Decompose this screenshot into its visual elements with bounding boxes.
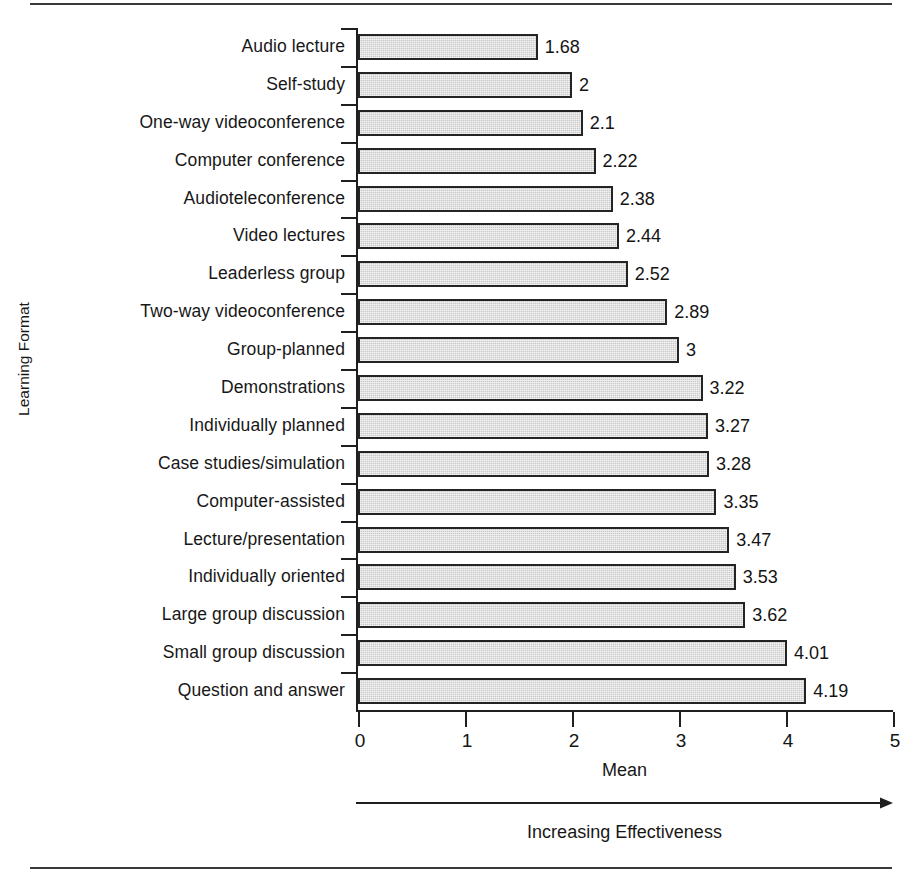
x-axis-title: Mean — [356, 760, 893, 781]
bar-value-label: 2 — [579, 72, 589, 98]
bar-category-label: Computer-assisted — [196, 483, 345, 521]
bar-rows: Audio lecture1.68Self-study2One-way vide… — [0, 28, 921, 710]
bar-value-label: 3.27 — [715, 413, 750, 439]
bar-row: Leaderless group2.52 — [0, 255, 921, 293]
bar-row: Individually planned3.27 — [0, 407, 921, 445]
bar-category-label: Two-way videoconference — [140, 293, 345, 331]
bar — [358, 223, 619, 249]
bar-row: Lecture/presentation3.47 — [0, 521, 921, 559]
bar — [358, 678, 806, 704]
bar-value-label: 2.1 — [590, 110, 615, 136]
x-axis-tick — [358, 712, 360, 727]
bar-row: Audioteleconference2.38 — [0, 180, 921, 218]
bar-category-label: Leaderless group — [208, 255, 345, 293]
bar-value-label: 3.53 — [743, 564, 778, 590]
bar-value-label: 4.19 — [813, 678, 848, 704]
bar — [358, 489, 716, 515]
bar — [358, 72, 572, 98]
x-axis-line — [356, 710, 893, 712]
bar-row: Question and answer4.19 — [0, 672, 921, 710]
bar-category-label: Lecture/presentation — [183, 521, 345, 559]
bar-value-label: 3.35 — [723, 489, 758, 515]
bar — [358, 527, 729, 553]
bar-row: Self-study2 — [0, 66, 921, 104]
bar — [358, 451, 709, 477]
bar-row: Video lectures2.44 — [0, 217, 921, 255]
x-axis-tick — [786, 712, 788, 727]
bar-value-label: 3.22 — [710, 375, 745, 401]
bar-row: Audio lecture1.68 — [0, 28, 921, 66]
bar — [358, 148, 596, 174]
bar-row: Large group discussion3.62 — [0, 596, 921, 634]
bar-value-label: 2.38 — [620, 186, 655, 212]
bar-row: Case studies/simulation3.28 — [0, 445, 921, 483]
bar-value-label: 2.22 — [603, 148, 638, 174]
bar-category-label: Audio lecture — [242, 28, 345, 66]
x-axis-tick-label: 3 — [661, 730, 701, 752]
bar-row: One-way videoconference2.1 — [0, 104, 921, 142]
bar — [358, 602, 745, 628]
bar — [358, 34, 538, 60]
bar-value-label: 4.01 — [794, 640, 829, 666]
bar — [358, 564, 736, 590]
bar-category-label: Individually planned — [189, 407, 345, 445]
bar-category-label: Computer conference — [175, 142, 345, 180]
x-axis-tick-label: 0 — [340, 730, 380, 752]
bar — [358, 640, 787, 666]
x-axis-tick-label: 2 — [554, 730, 594, 752]
bar-row: Group-planned3 — [0, 331, 921, 369]
chart-page: Learning Format Audio lecture1.68Self-st… — [0, 0, 921, 884]
bar-row: Computer-assisted3.35 — [0, 483, 921, 521]
bar-category-label: Individually oriented — [188, 558, 345, 596]
bar-row: Demonstrations3.22 — [0, 369, 921, 407]
bar-row: Two-way videoconference2.89 — [0, 293, 921, 331]
bar-value-label: 2.44 — [626, 223, 661, 249]
bar-value-label: 2.52 — [635, 261, 670, 287]
bar — [358, 375, 703, 401]
bar-value-label: 1.68 — [545, 34, 580, 60]
bar-row: Individually oriented3.53 — [0, 558, 921, 596]
bar-row: Computer conference2.22 — [0, 142, 921, 180]
bar-category-label: Group-planned — [227, 331, 345, 369]
x-axis-tick — [679, 712, 681, 727]
x-axis-tick — [572, 712, 574, 727]
bar-chart-plot-area: Learning Format Audio lecture1.68Self-st… — [0, 0, 921, 884]
bar-category-label: Self-study — [266, 66, 345, 104]
bar-category-label: Audioteleconference — [184, 180, 345, 218]
increasing-effectiveness-arrow-icon — [356, 795, 893, 811]
x-axis-tick-label: 1 — [447, 730, 487, 752]
bar-value-label: 3 — [686, 337, 696, 363]
x-axis-tick — [893, 712, 895, 727]
bar-value-label: 3.28 — [716, 451, 751, 477]
bar-category-label: Large group discussion — [162, 596, 345, 634]
bar — [358, 413, 708, 439]
bar — [358, 299, 667, 325]
bar-value-label: 2.89 — [674, 299, 709, 325]
bar-category-label: Video lectures — [233, 217, 345, 255]
bar-category-label: One-way videoconference — [139, 104, 345, 142]
bar — [358, 110, 583, 136]
bar-value-label: 3.62 — [752, 602, 787, 628]
bar — [358, 261, 628, 287]
bar-category-label: Demonstrations — [221, 369, 345, 407]
increasing-effectiveness-caption: Increasing Effectiveness — [356, 822, 893, 843]
x-axis-tick-label: 5 — [875, 730, 915, 752]
bar-row: Small group discussion4.01 — [0, 634, 921, 672]
bar-category-label: Small group discussion — [163, 634, 345, 672]
x-axis-tick-label: 4 — [768, 730, 808, 752]
bar-category-label: Question and answer — [178, 672, 345, 710]
bar-category-label: Case studies/simulation — [158, 445, 345, 483]
bar — [358, 337, 679, 363]
bar — [358, 186, 613, 212]
bar-value-label: 3.47 — [736, 527, 771, 553]
x-axis-tick — [465, 712, 467, 727]
